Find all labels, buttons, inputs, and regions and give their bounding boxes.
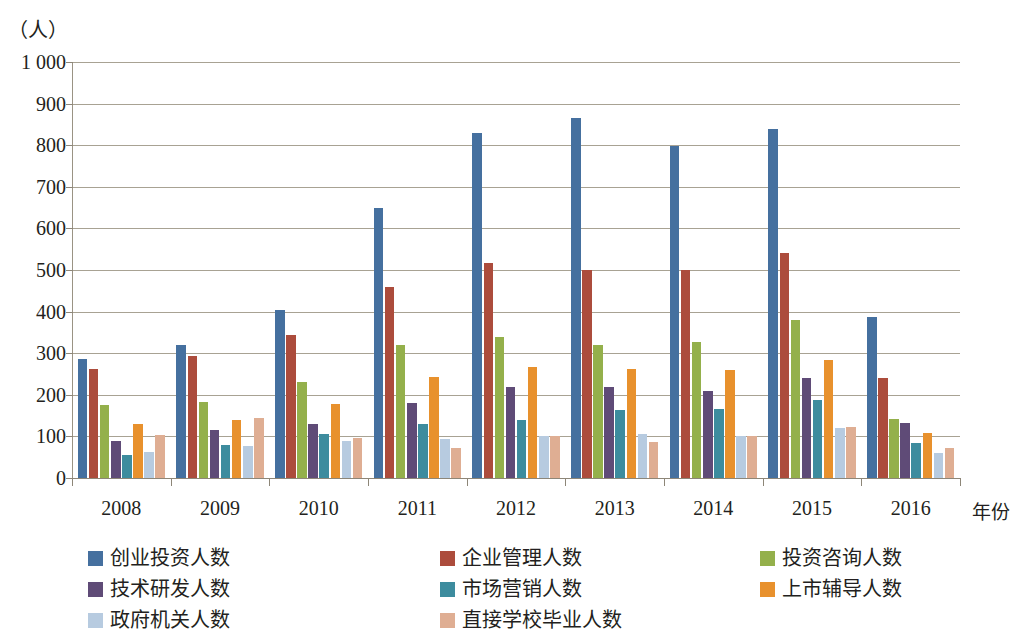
y-axis-tick-labels: 01002003004005006007008009001 000 <box>0 62 66 478</box>
y-axis-tick-label: 700 <box>4 177 66 197</box>
bar <box>144 452 154 478</box>
bar <box>528 367 538 478</box>
bar <box>714 409 724 478</box>
bar <box>627 369 637 478</box>
x-axis-tick-label: 2009 <box>200 496 240 520</box>
bar <box>429 377 439 478</box>
bar <box>517 420 527 478</box>
bar <box>736 436 746 478</box>
legend-swatch-icon <box>88 613 103 628</box>
x-axis-tick-label: 2015 <box>792 496 832 520</box>
bar <box>889 419 899 478</box>
legend-item-label: 投资咨询人数 <box>782 548 902 568</box>
bar <box>506 387 516 478</box>
x-axis-tick <box>368 478 369 486</box>
bar <box>571 118 581 478</box>
bar <box>199 402 209 478</box>
x-axis-tick <box>467 478 468 486</box>
bar <box>813 400 823 478</box>
bar <box>670 146 680 478</box>
legend-swatch-icon <box>440 551 455 566</box>
bar <box>934 453 944 478</box>
x-axis-tick-label: 2016 <box>891 496 931 520</box>
bar <box>780 253 790 478</box>
bar <box>308 424 318 478</box>
y-axis-tick-label: 300 <box>4 343 66 363</box>
bar <box>725 370 735 478</box>
bar <box>418 424 428 478</box>
bar <box>900 423 910 478</box>
x-axis-tick <box>960 478 961 486</box>
bar <box>176 345 186 478</box>
y-axis-tick-label: 400 <box>4 302 66 322</box>
x-axis-tick-label: 2013 <box>595 496 635 520</box>
x-axis-tick <box>664 478 665 486</box>
bar <box>681 270 691 478</box>
legend-item-label: 技术研发人数 <box>110 579 230 599</box>
bar <box>878 378 888 478</box>
bar <box>286 335 296 478</box>
x-axis-ticks <box>72 478 960 488</box>
bar <box>100 405 110 478</box>
bar <box>846 427 856 478</box>
bar <box>342 441 352 478</box>
legend-item-label: 政府机关人数 <box>110 610 230 630</box>
bar <box>802 378 812 478</box>
bar <box>604 387 614 478</box>
bar <box>396 345 406 478</box>
x-axis-tick <box>269 478 270 486</box>
bar <box>484 263 494 478</box>
bar <box>111 441 121 478</box>
legend-item-label: 企业管理人数 <box>462 548 582 568</box>
bar <box>210 430 220 478</box>
bar <box>703 391 713 478</box>
bar <box>649 442 659 478</box>
legend-item-label: 直接学校毕业人数 <box>462 610 622 630</box>
legend-item-label: 上市辅导人数 <box>782 579 902 599</box>
legend-item[interactable]: 创业投资人数 <box>88 548 230 568</box>
bar <box>385 287 395 478</box>
legend-swatch-icon <box>88 582 103 597</box>
x-axis-tick <box>72 478 73 486</box>
y-axis-tick-label: 500 <box>4 260 66 280</box>
bar <box>692 342 702 478</box>
legend-swatch-icon <box>88 551 103 566</box>
bar <box>188 356 198 478</box>
bar <box>835 428 845 478</box>
chart-figure: （人） 01002003004005006007008009001 000 20… <box>0 0 1026 637</box>
legend-swatch-icon <box>760 582 775 597</box>
x-axis-tick-label: 2010 <box>299 496 339 520</box>
x-axis-title: 年份 <box>972 497 1010 524</box>
bar <box>582 270 592 478</box>
legend-item[interactable]: 直接学校毕业人数 <box>440 610 622 630</box>
x-axis-tick <box>171 478 172 486</box>
y-axis-tick-label: 200 <box>4 385 66 405</box>
bar <box>472 133 482 478</box>
legend-item[interactable]: 投资咨询人数 <box>760 548 902 568</box>
legend-item-label: 市场营销人数 <box>462 579 582 599</box>
bar <box>275 310 285 478</box>
bar <box>747 436 757 478</box>
y-axis-tick-label: 1 000 <box>4 52 66 72</box>
bar <box>221 445 231 478</box>
bar <box>615 410 625 478</box>
bar <box>78 359 88 478</box>
legend-item[interactable]: 市场营销人数 <box>440 579 582 599</box>
legend-swatch-icon <box>440 613 455 628</box>
x-axis-tick <box>861 478 862 486</box>
chart-legend: 创业投资人数企业管理人数投资咨询人数技术研发人数市场营销人数上市辅导人数政府机关… <box>0 540 1026 637</box>
bar <box>911 443 921 478</box>
bar <box>122 455 132 478</box>
legend-item[interactable]: 企业管理人数 <box>440 548 582 568</box>
bar <box>923 433 933 478</box>
y-axis-tick-label: 100 <box>4 426 66 446</box>
x-axis-tick-label: 2008 <box>101 496 141 520</box>
y-axis-tick-label: 0 <box>4 468 66 488</box>
bar <box>495 337 505 478</box>
legend-item[interactable]: 技术研发人数 <box>88 579 230 599</box>
legend-item[interactable]: 上市辅导人数 <box>760 579 902 599</box>
legend-item[interactable]: 政府机关人数 <box>88 610 230 630</box>
bar <box>319 434 329 478</box>
x-axis-tick-label: 2011 <box>398 496 437 520</box>
bar <box>451 448 461 478</box>
